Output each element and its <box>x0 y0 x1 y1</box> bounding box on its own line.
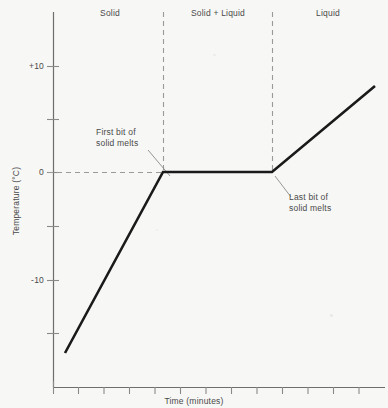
y-tick-label-plus10: +10 <box>16 61 44 72</box>
heating-curve-chart: +10 0 -10 Temperature (°C) Time (minutes… <box>0 0 388 408</box>
annotation-last-melt-line1: Last bit of <box>289 192 331 203</box>
annotation-first-melt-line2: solid melts <box>96 138 138 149</box>
annotation-first-melt-line1: First bit of <box>96 127 138 138</box>
paper-speck <box>156 229 158 231</box>
annotation-last-melt: Last bit of solid melts <box>289 192 331 214</box>
y-axis-title: Temperature (°C) <box>11 146 21 256</box>
annotation-first-melt: First bit of solid melts <box>96 127 138 149</box>
annotation-last-melt-line2: solid melts <box>289 203 331 214</box>
region-label-solid-liquid: Solid + Liquid <box>175 8 261 19</box>
y-tick-label-minus10: -10 <box>16 275 44 286</box>
paper-speck <box>330 314 333 317</box>
x-axis-title: Time (minutes) <box>0 396 388 406</box>
paper-speck <box>213 54 216 56</box>
region-label-solid: Solid <box>78 8 142 19</box>
region-label-liquid: Liquid <box>296 8 360 19</box>
